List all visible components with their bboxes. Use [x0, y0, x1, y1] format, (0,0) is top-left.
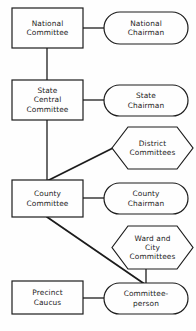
node-committee-person[interactable] — [104, 283, 188, 314]
node-national-committee[interactable] — [12, 8, 83, 48]
connector-county-committee-to-district-committees — [47, 148, 113, 181]
node-district-committees[interactable] — [112, 127, 193, 169]
node-national-chairman[interactable] — [104, 12, 188, 44]
node-ward-and-city-committees[interactable] — [112, 226, 193, 269]
node-state-chairman[interactable] — [104, 85, 188, 116]
node-county-chairman[interactable] — [104, 183, 188, 214]
node-county-committee[interactable] — [12, 180, 83, 217]
organization-chart-diagram: National Committee National Chairman Sta… — [0, 0, 196, 331]
node-state-central-committee[interactable] — [12, 80, 83, 120]
node-precinct-caucus[interactable] — [12, 281, 83, 314]
